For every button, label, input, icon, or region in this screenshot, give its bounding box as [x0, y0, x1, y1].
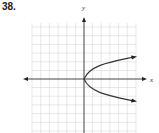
x-axis-right-arrow-icon: [142, 77, 147, 81]
x-axis-left-arrow-icon: [23, 77, 28, 81]
coordinate-graph: x y: [0, 0, 159, 133]
y-axis-label: y: [81, 4, 86, 12]
x-axis-label: x: [149, 76, 154, 84]
y-axis-up-arrow-icon: [82, 17, 86, 22]
